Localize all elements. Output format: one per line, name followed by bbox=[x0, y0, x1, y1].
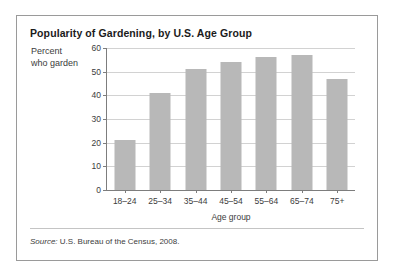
x-axis-tick-label: 65–74 bbox=[290, 196, 314, 206]
x-axis-tick-mark bbox=[266, 190, 267, 193]
bar bbox=[114, 140, 135, 190]
bar-group: 35–44 bbox=[178, 48, 213, 190]
chart-title: Popularity of Gardening, by U.S. Age Gro… bbox=[30, 27, 252, 39]
y-axis-tick-label: 0 bbox=[96, 185, 101, 195]
x-axis-tick-label: 75+ bbox=[330, 196, 344, 206]
x-axis-tick-label: 55–64 bbox=[255, 196, 279, 206]
x-axis-tick-mark bbox=[160, 190, 161, 193]
x-axis-tick-mark bbox=[196, 190, 197, 193]
y-axis-tick-label: 10 bbox=[92, 161, 101, 171]
y-axis-tick-mark bbox=[103, 190, 107, 191]
chart-figure: Popularity of Gardening, by U.S. Age Gro… bbox=[16, 15, 378, 261]
bar-group: 65–74 bbox=[284, 48, 319, 190]
bar bbox=[256, 57, 277, 190]
bar-group: 55–64 bbox=[249, 48, 284, 190]
y-axis-tick-label: 40 bbox=[92, 90, 101, 100]
source-label: Source: bbox=[30, 237, 58, 246]
x-axis-tick-mark bbox=[231, 190, 232, 193]
bars-layer: 18–2425–3435–4445–5455–6465–7475+ bbox=[107, 48, 355, 190]
x-axis-label: Age group bbox=[107, 212, 355, 222]
bar bbox=[291, 55, 312, 190]
x-axis-tick-label: 35–44 bbox=[184, 196, 208, 206]
x-axis-tick-label: 45–54 bbox=[219, 196, 243, 206]
plot-area: 0102030405060 18–2425–3435–4445–5455–646… bbox=[107, 48, 355, 190]
x-axis-tick-mark bbox=[337, 190, 338, 193]
source-note: Source: U.S. Bureau of the Census, 2008. bbox=[30, 237, 179, 246]
bar-group: 18–24 bbox=[107, 48, 142, 190]
x-axis-tick-mark bbox=[302, 190, 303, 193]
x-axis-tick-mark bbox=[125, 190, 126, 193]
x-axis-tick-label: 18–24 bbox=[113, 196, 137, 206]
bar bbox=[327, 79, 348, 190]
source-value: U.S. Bureau of the Census, 2008. bbox=[58, 237, 180, 246]
bar-group: 25–34 bbox=[142, 48, 177, 190]
bar bbox=[185, 69, 206, 190]
source-divider bbox=[30, 228, 364, 229]
bar-group: 75+ bbox=[320, 48, 355, 190]
y-axis-tick-label: 20 bbox=[92, 138, 101, 148]
bar bbox=[220, 62, 241, 190]
y-axis-tick-label: 30 bbox=[92, 114, 101, 124]
bar-group: 45–54 bbox=[213, 48, 248, 190]
y-axis-tick-label: 60 bbox=[92, 43, 101, 53]
bar bbox=[150, 93, 171, 190]
y-axis-tick-label: 50 bbox=[92, 67, 101, 77]
x-axis-tick-label: 25–34 bbox=[148, 196, 172, 206]
